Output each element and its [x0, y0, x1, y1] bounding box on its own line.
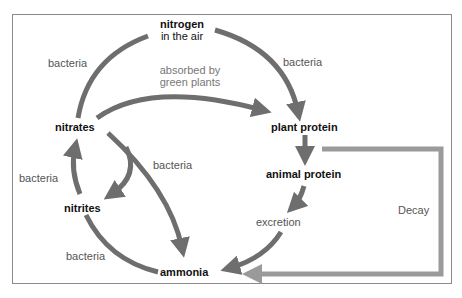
- label-decay: Decay: [398, 204, 429, 216]
- arrow-nitrites-to-nitrates: [73, 148, 80, 194]
- node-nitrogen: nitrogen in the air: [147, 18, 217, 42]
- node-plant-protein: plant protein: [271, 121, 338, 133]
- node-nitrates: nitrates: [55, 121, 95, 133]
- label-absorbed-line1: absorbed by: [150, 64, 230, 76]
- label-absorbed-line2: green plants: [150, 76, 230, 88]
- node-nitrogen-line2: in the air: [147, 30, 217, 42]
- label-bacteria-middle: bacteria: [153, 159, 192, 171]
- node-animal-protein: animal protein: [266, 168, 341, 180]
- label-absorbed-by-green-plants: absorbed by green plants: [150, 64, 230, 88]
- arrow-animal-to-excretion: [294, 186, 304, 206]
- arrow-nitrates-to-plant-protein: [97, 97, 262, 118]
- label-bacteria-top-right: bacteria: [283, 56, 322, 68]
- arrow-nitrates-to-nitrogen: [78, 36, 148, 118]
- node-nitrites: nitrites: [64, 202, 101, 214]
- node-excretion: excretion: [256, 216, 301, 228]
- arrow-excretion-to-ammonia: [230, 232, 281, 268]
- label-bacteria-left: bacteria: [19, 172, 58, 184]
- label-bacteria-top-left: bacteria: [48, 57, 87, 69]
- node-nitrogen-line1: nitrogen: [147, 18, 217, 30]
- arrow-ammonia-to-nitrites: [86, 215, 158, 272]
- node-ammonia: ammonia: [160, 266, 208, 278]
- label-bacteria-bottom-left: bacteria: [66, 250, 105, 262]
